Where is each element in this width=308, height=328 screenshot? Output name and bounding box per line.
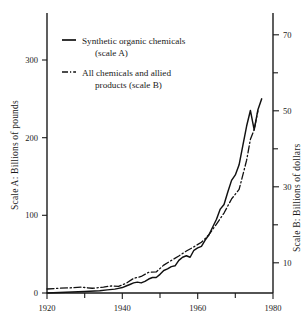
chart-canvas: 0 100 200 300 10 30 50 70 <box>0 0 308 328</box>
x-tick-label-1960: 1960 <box>189 303 206 313</box>
left-tick-label-200: 200 <box>25 133 38 143</box>
x-tick-label-1940: 1940 <box>114 303 131 313</box>
chart-figure: 0 100 200 300 10 30 50 70 <box>0 0 308 328</box>
series-line-synthetic-organic <box>47 99 262 293</box>
right-tick-label-50: 50 <box>283 106 292 116</box>
left-axis-tick-labels: 0 100 200 300 <box>25 55 38 298</box>
right-tick-label-30: 30 <box>283 182 292 192</box>
left-tick-label-100: 100 <box>25 210 38 220</box>
chart-legend: Synthetic organic chemicals (scale A) Al… <box>62 36 186 90</box>
series-line-all-chemicals <box>47 111 258 289</box>
right-axis-title: Scale B: Billions of dollars <box>292 143 302 252</box>
left-tick-label-0: 0 <box>34 288 38 298</box>
x-axis-tick-labels: 1920 1940 1960 1980 <box>39 303 282 313</box>
x-tick-label-1980: 1980 <box>265 303 282 313</box>
right-axis-ticks <box>273 35 279 263</box>
legend-label-allchem-line2: products (scale B) <box>95 80 162 90</box>
left-tick-label-300: 300 <box>25 55 38 65</box>
right-tick-label-10: 10 <box>283 258 292 268</box>
left-axis-title: Scale A: Billions of pounds <box>10 100 20 210</box>
left-axis-ticks <box>42 60 47 293</box>
x-tick-label-1920: 1920 <box>39 303 56 313</box>
right-tick-label-70: 70 <box>283 30 292 40</box>
legend-label-allchem-line1: All chemicals and allied <box>82 68 171 78</box>
legend-label-synthetic-line2: (scale A) <box>95 48 128 58</box>
x-axis-ticks <box>47 293 273 299</box>
right-axis-tick-labels: 10 30 50 70 <box>283 30 292 268</box>
legend-label-synthetic-line1: Synthetic organic chemicals <box>82 36 186 46</box>
